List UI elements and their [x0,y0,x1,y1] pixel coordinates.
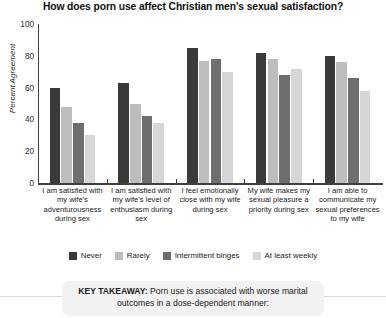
y-tick-label: 60 [4,83,34,92]
legend-item[interactable]: Intermittent binges [163,251,240,260]
legend-item[interactable]: Rarely [115,251,150,260]
x-axis-label: I feel emotionally close with my wife du… [176,186,245,214]
bar-group [38,24,107,183]
bar[interactable] [268,59,279,183]
bar[interactable] [222,72,233,183]
legend-swatch [115,252,123,260]
legend-label: Never [81,251,102,260]
bar[interactable] [291,69,302,183]
bar[interactable] [211,59,222,183]
legend-label: At least weekly [265,251,318,260]
bar[interactable] [153,123,164,183]
legend-swatch [69,252,77,260]
legend-item[interactable]: Never [69,251,102,260]
key-takeaway-label: KEY TAKEAWAY: [78,286,147,296]
key-takeaway-text: KEY TAKEAWAY: Porn use is associated wit… [70,286,316,309]
legend-swatch [253,252,261,260]
chart-title: How does porn use affect Christian men's… [0,1,386,12]
x-axis-label: I am satisfied with my wife's level of e… [107,186,176,224]
bar[interactable] [336,62,347,183]
legend-label: Rarely [127,251,150,260]
legend-swatch [163,252,171,260]
bar[interactable] [73,123,84,183]
y-tick-label: 40 [4,115,34,124]
chart-legend: NeverRarelyIntermittent bingesAt least w… [0,251,386,260]
bar[interactable] [360,91,371,183]
x-axis-line [38,183,383,185]
bar[interactable] [199,61,210,183]
y-tick-label: 0 [4,179,34,188]
bar[interactable] [279,75,290,183]
y-axis-ticks: 020406080100 [0,24,34,184]
legend-label: Intermittent binges [175,251,240,260]
y-tick-label: 20 [4,147,34,156]
x-axis-label: My wife makes my sexual pleasure a prior… [244,186,313,214]
key-takeaway-box: KEY TAKEAWAY: Porn use is associated wit… [62,281,324,316]
x-axis-category-labels: I am satisfied with my wife's adventurou… [38,186,383,244]
plot-area [38,24,382,183]
bar[interactable] [325,56,336,183]
bar[interactable] [85,135,96,183]
bar[interactable] [130,104,141,184]
x-axis-label: I am satisfied with my wife's adventurou… [38,186,107,224]
y-tick-label: 100 [4,20,34,29]
bar-group [176,24,245,183]
bar-group [107,24,176,183]
bar-group [244,24,313,183]
bar[interactable] [187,48,198,183]
bar[interactable] [256,53,267,183]
bar[interactable] [50,88,61,183]
bar[interactable] [348,78,359,183]
x-axis-label: I am able to communicate my sexual prefe… [313,186,382,224]
legend-item[interactable]: At least weekly [253,251,318,260]
bar[interactable] [118,83,129,183]
bar[interactable] [61,107,72,183]
bar[interactable] [142,116,153,183]
y-tick-label: 80 [4,51,34,60]
bar-group [313,24,382,183]
